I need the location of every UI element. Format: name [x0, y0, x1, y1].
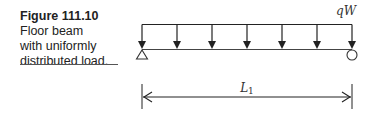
- beam-diagram: qW L1: [0, 0, 376, 113]
- distributed-load-arrows: [138, 25, 356, 50]
- span-label: L1: [239, 81, 254, 96]
- roller-support-icon: [347, 50, 357, 60]
- pin-support-icon: [137, 50, 148, 59]
- load-label: qW: [336, 4, 358, 18]
